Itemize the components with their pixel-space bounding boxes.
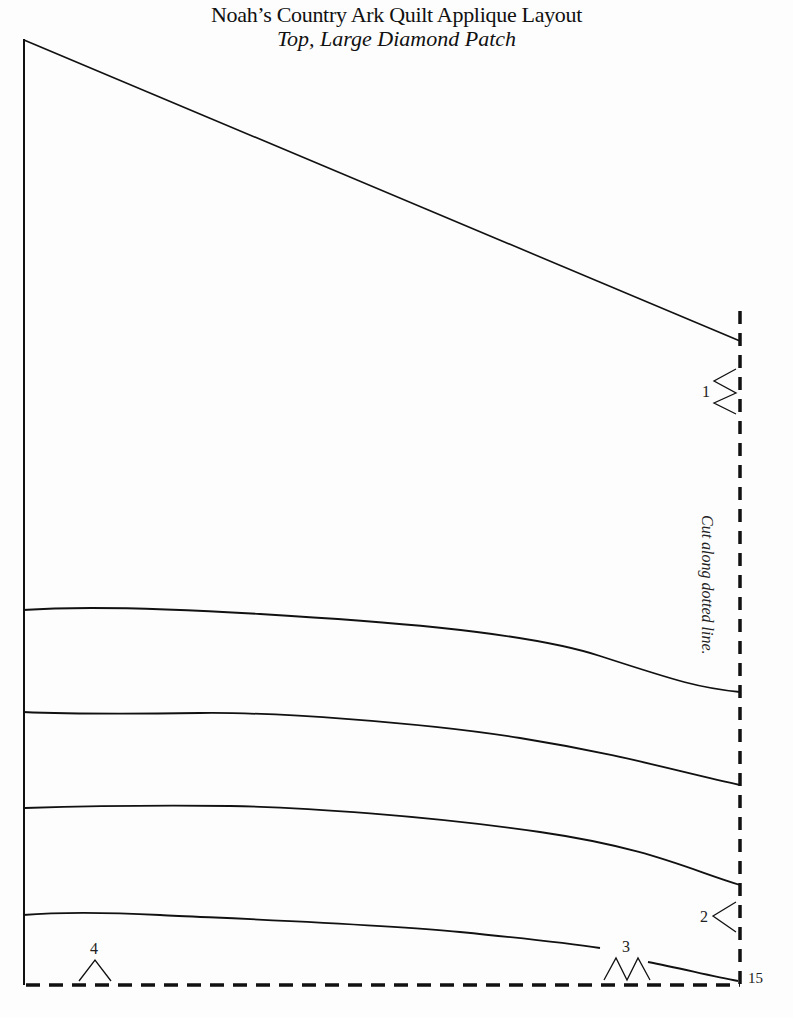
marker-3-label: 3 [622,938,630,956]
marker-2-notch-icon [713,902,736,932]
marker-4-notch-icon [79,960,111,981]
pattern-page: Noah’s Country Ark Quilt Applique Layout… [0,0,793,1018]
marker-4-label: 4 [90,940,98,958]
marker-3-notch-icon [604,958,650,980]
marker-1-notch-icon [714,369,736,414]
corner-label: 15 [748,970,763,987]
applique-curve-3 [25,806,740,885]
top-diagonal-edge [24,40,740,341]
pattern-drawing [0,0,793,1018]
cut-instruction-note: Cut along dotted line. [698,515,716,655]
applique-curve-2 [23,712,740,785]
marker-1-label: 1 [702,383,710,401]
applique-curve-1 [23,608,740,692]
applique-curve-4 [23,913,600,948]
applique-curve-4-tail [648,962,738,981]
marker-2-label: 2 [700,908,708,926]
